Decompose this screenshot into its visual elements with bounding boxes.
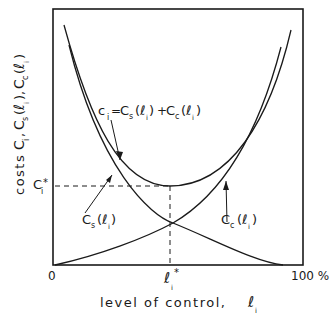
svg-text:i: i [41,187,43,196]
svg-text:c: c [175,112,179,121]
svg-text:*: * [43,177,48,188]
x-axis-label: level of control, ℓ i [100,293,257,315]
svg-text:s: s [21,117,30,121]
svg-text:c: c [230,221,234,230]
svg-text:ℓ: ℓ [139,103,145,118]
cs-label: C s ( ℓ i ) [82,212,116,231]
y-axis-label: costs C i , C s ( ℓ i ), C c ( ℓ i ) [11,54,31,195]
svg-text:i: i [171,284,173,292]
svg-text:i: i [192,114,194,122]
svg-text:s: s [129,112,133,121]
y-tick-optimal-cost: C i * [33,177,48,196]
svg-text:c: c [98,103,105,118]
svg-text:i: i [107,113,109,122]
x-tick-optimal-control: ℓ i * [163,267,179,292]
svg-text:): ) [196,103,201,118]
svg-text:i: i [255,307,257,315]
svg-text:ℓ: ℓ [11,63,27,70]
svg-text:c: c [21,76,30,80]
cost-chart: c i = C s ( ℓ i ) + C c ( ℓ i ) C s ( ℓ … [0,0,330,322]
svg-text:s: s [91,221,95,230]
svg-text:): ) [111,212,116,227]
svg-text:i: i [23,102,31,104]
svg-text:): ) [12,54,27,59]
svg-text:,: , [12,133,27,137]
svg-text:i: i [23,61,31,63]
svg-text:),: ), [12,91,27,100]
total-cost-label: c i = C s ( ℓ i ) + C c ( ℓ i ) [98,103,201,122]
svg-text:i: i [108,223,110,231]
svg-text:ℓ: ℓ [163,269,170,287]
cc-curve [55,47,281,265]
x-tick-zero: 0 [48,269,56,283]
x-tick-hundred: 100 % [291,269,329,283]
svg-text:ℓ: ℓ [185,103,191,118]
cs-curve [69,45,283,265]
svg-text:C: C [82,212,91,227]
svg-text:C: C [166,103,175,118]
svg-text:costs: costs [12,154,27,195]
cs-arrow [85,175,112,213]
svg-text:ℓ: ℓ [241,212,247,227]
cc-label: C c ( ℓ i ) [221,212,257,231]
svg-text:level of control,: level of control, [100,295,226,310]
svg-text:C: C [221,212,230,227]
svg-text:): ) [149,103,154,118]
svg-text:C: C [120,103,129,118]
svg-text:): ) [252,212,257,227]
svg-text:i: i [248,223,250,231]
svg-text:i: i [22,139,31,141]
svg-text:ℓ: ℓ [247,293,254,311]
svg-text:ℓ: ℓ [101,212,107,227]
svg-text:ℓ: ℓ [11,104,27,111]
svg-text:*: * [174,267,179,278]
svg-text:i: i [146,114,148,122]
